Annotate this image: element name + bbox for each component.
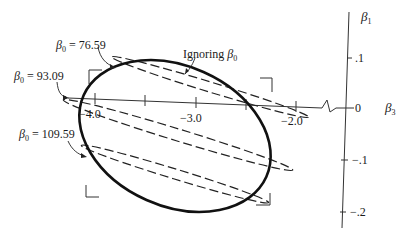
contour-label-76-59: β0 = 76.59 [55,38,106,54]
contour-label-93-09: β0 = 93.09 [13,69,64,85]
x-axis-name: β3 [384,100,395,117]
y-tick-label: −.1 [352,153,368,167]
corner-bracket-tr [260,78,272,92]
y-tick-label: 0 [355,101,361,115]
x-tick-label: −3.0 [180,111,202,125]
arrowhead-icon [185,68,189,74]
y-tick-label: .1 [355,51,364,65]
joint-region-ellipse [55,31,295,235]
corner-bracket-bl [86,185,99,197]
y-tick-label: −.2 [350,205,366,219]
y-axis-line [342,12,349,228]
contour-76-59 [110,52,310,122]
leader-93-09 [57,82,66,97]
y-axis-name: β1 [360,9,371,26]
ellipse-label: Ignoring β0 [183,47,237,63]
confidence-region-diagram: Ignoring β0 β0 = 76.59 β0 = 93.09 β0 = 1… [0,0,409,235]
arrowhead-icon [63,95,69,100]
arrowhead-icon [81,153,87,158]
x-tick-label: −4.0 [79,107,101,121]
x-tick-label: −2.0 [281,114,303,128]
contour-label-109-59: β0 = 109.59 [18,127,75,143]
